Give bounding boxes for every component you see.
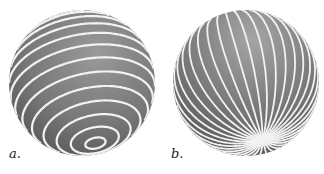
figure-a: a. xyxy=(0,0,162,174)
figure-b: b. xyxy=(162,0,324,174)
figure-label-b: b. xyxy=(171,146,183,161)
sphere-latitude-lines xyxy=(0,0,162,174)
figure-label-a: a. xyxy=(9,146,21,161)
sphere-meridian-lines xyxy=(162,0,324,174)
